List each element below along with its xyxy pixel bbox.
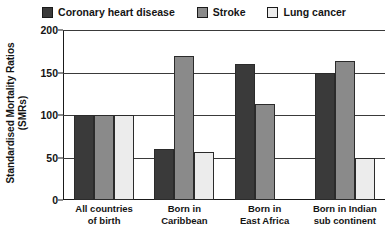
legend-label-coronary-heart-disease: Coronary heart disease xyxy=(58,7,175,18)
bar-slot xyxy=(315,30,335,200)
legend-item-coronary-heart-disease: Coronary heart disease xyxy=(42,7,175,18)
bar[interactable] xyxy=(174,56,194,201)
y-tick-label-0: 0 xyxy=(52,194,58,206)
y-axis-title: Standardised Mortality Ratios (SMRs) xyxy=(0,24,34,202)
x-axis-label-line2: Caribbean xyxy=(161,215,207,226)
x-axis-label-line2: East Africa xyxy=(240,215,289,226)
x-axis-label: Born in Indiansub continent xyxy=(305,203,385,237)
bar-groups xyxy=(64,30,385,200)
x-axis-label: Born inCaribbean xyxy=(144,203,224,237)
y-tick-mark-150 xyxy=(58,72,63,73)
x-axis-label-line1: All countries xyxy=(75,203,133,214)
legend-label-stroke: Stroke xyxy=(213,7,246,18)
y-tick-mark-100 xyxy=(58,115,63,116)
y-axis-title-line2: (SMRs) xyxy=(17,96,28,130)
x-axis-label-line1: Born in xyxy=(168,203,201,214)
bar[interactable] xyxy=(315,73,335,201)
y-tick-label-200: 200 xyxy=(40,24,58,36)
bar[interactable] xyxy=(74,115,94,200)
bar-slot xyxy=(94,30,114,200)
legend-swatch-icon-coronary-heart-disease xyxy=(42,7,53,18)
bar-chart-figure: Coronary heart disease Stroke Lung cance… xyxy=(0,0,388,239)
y-tick-label-150: 150 xyxy=(40,67,58,79)
x-axis-label-line1: Born in xyxy=(248,203,281,214)
chart-legend: Coronary heart disease Stroke Lung cance… xyxy=(0,2,388,22)
legend-item-lung-cancer: Lung cancer xyxy=(267,7,345,18)
bar-slot xyxy=(355,30,375,200)
bar-group xyxy=(305,30,385,200)
bar-slot xyxy=(255,30,275,200)
x-axis-label-line1: Born in Indian xyxy=(313,203,377,214)
bar[interactable] xyxy=(94,115,114,200)
x-axis-label-line2: of birth xyxy=(88,215,121,226)
legend-item-stroke: Stroke xyxy=(197,7,246,18)
bar[interactable] xyxy=(194,152,214,200)
bar-group xyxy=(144,30,224,200)
y-tick-mark-0 xyxy=(58,200,63,201)
plot-area: 050100150200 xyxy=(63,30,385,200)
legend-swatch-icon-stroke xyxy=(197,7,208,18)
bar[interactable] xyxy=(154,149,174,200)
bar-slot xyxy=(235,30,255,200)
bar-slot xyxy=(74,30,94,200)
legend-swatch-icon-lung-cancer xyxy=(267,7,278,18)
bar[interactable] xyxy=(335,61,355,200)
bar[interactable] xyxy=(235,64,255,200)
y-tick-label-50: 50 xyxy=(46,152,58,164)
bar-slot xyxy=(174,30,194,200)
y-tick-mark-50 xyxy=(58,157,63,158)
legend-label-lung-cancer: Lung cancer xyxy=(283,7,345,18)
bar-group xyxy=(64,30,144,200)
x-axis-label-line2: sub continent xyxy=(314,215,376,226)
bar[interactable] xyxy=(255,104,275,200)
bar-group xyxy=(225,30,305,200)
x-axis-label: All countriesof birth xyxy=(64,203,144,237)
x-axis-label: Born inEast Africa xyxy=(225,203,305,237)
bar-slot xyxy=(194,30,214,200)
bar-slot xyxy=(335,30,355,200)
y-tick-mark-200 xyxy=(58,30,63,31)
x-axis-labels: All countriesof birthBorn inCaribbeanBor… xyxy=(64,203,385,237)
y-axis-title-line1: Standardised Mortality Ratios xyxy=(5,42,16,183)
bar-slot xyxy=(114,30,134,200)
bar[interactable] xyxy=(114,115,134,200)
bar[interactable] xyxy=(355,158,375,200)
bar-slot xyxy=(275,30,295,200)
y-tick-label-100: 100 xyxy=(40,109,58,121)
bar-slot xyxy=(154,30,174,200)
